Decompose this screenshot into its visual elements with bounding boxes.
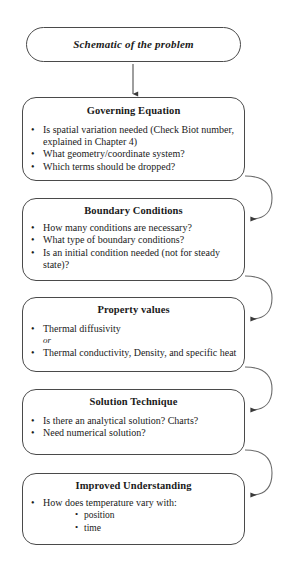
bullet-icon: • [31,323,35,335]
alternative-separator: or [29,335,238,346]
bullet-icon: • [31,234,35,246]
list-item: • What geometry/coordinate system? [29,148,238,160]
list-item: • Which terms should be dropped? [29,161,238,173]
list-item-text: position [84,510,115,520]
bullet-icon: • [31,427,35,439]
list-item: • What type of boundary conditions? [29,234,238,246]
list-item: • How many conditions are necessary? [29,222,238,234]
box-schematic-heading: Schematic of the problem [73,38,194,51]
list-item-text: Thermal diffusivity [43,323,121,334]
box-boundary-conditions: Boundary Conditions • How many condition… [22,198,245,281]
box-improved-subbullet-list: • position • time [29,509,238,534]
list-item: • Need numerical solution? [29,427,238,439]
box-solution-heading: Solution Technique [29,396,238,409]
box-governing-equation: Governing Equation • Is spatial variatio… [22,97,245,181]
box-solution-bullet-list: • Is there an analytical solution? Chart… [29,415,238,440]
box-solution-technique: Solution Technique • Is there an analyti… [22,389,245,455]
bullet-icon: • [31,247,35,259]
list-item: • Is there an analytical solution? Chart… [29,415,238,427]
bullet-icon: • [31,161,35,173]
bullet-icon: • [31,347,35,359]
list-item-text: How many conditions are necessary? [43,222,192,233]
box-property-values: Property values • Thermal diffusivity or… [22,297,245,372]
box-improved-bullet-list: • How does temperature vary with: [29,497,238,509]
bullet-icon: • [75,522,78,534]
list-item-text: What geometry/coordinate system? [43,148,185,159]
list-item-text: What type of boundary conditions? [43,234,184,245]
list-item: • Thermal conductivity, Density, and spe… [29,347,238,359]
feedback-arrow-boundary-to-property [245,276,272,319]
list-item: • Is spatial variation needed (Check Bio… [29,124,238,148]
bullet-icon: • [31,415,35,427]
box-improved-understanding: Improved Understanding • How does temper… [22,473,245,545]
list-item: • How does temperature vary with: [29,497,238,509]
box-property-bullet-list-2: • Thermal conductivity, Density, and spe… [29,347,238,359]
box-schematic: Schematic of the problem [26,27,241,62]
list-item: • Is an initial condition needed (not fo… [29,247,238,271]
bullet-icon: • [31,497,35,509]
feedback-arrow-property-to-solution [245,367,272,410]
box-improved-heading: Improved Understanding [29,480,238,493]
list-item: • position [75,509,238,521]
box-governing-heading: Governing Equation [29,105,238,118]
box-property-bullet-list: • Thermal diffusivity [29,323,238,335]
list-item-text: Which terms should be dropped? [43,161,175,172]
bullet-icon: • [75,509,78,521]
feedback-arrow-solution-to-improved [245,450,272,495]
list-item: • time [75,522,238,534]
box-governing-bullet-list: • Is spatial variation needed (Check Bio… [29,124,238,174]
box-boundary-bullet-list: • How many conditions are necessary? • W… [29,222,238,272]
list-item-text: time [84,523,101,533]
box-boundary-heading: Boundary Conditions [29,205,238,218]
bullet-icon: • [31,148,35,160]
list-item-text: Need numerical solution? [43,427,146,438]
feedback-arrow-governing-to-boundary [245,176,272,219]
bullet-icon: • [31,124,35,136]
list-item-text: Thermal conductivity, Density, and speci… [43,347,236,358]
list-item-text: How does temperature vary with: [43,497,177,508]
list-item: • Thermal diffusivity [29,323,238,335]
list-item-text: Is an initial condition needed (not for … [43,247,220,270]
box-property-heading: Property values [29,304,238,317]
bullet-icon: • [31,222,35,234]
flowchart-diagram: Schematic of the problem Governing Equat… [0,0,289,569]
list-item-text: Is there an analytical solution? Charts? [43,415,198,426]
list-item-text: Is spatial variation needed (Check Biot … [43,124,234,147]
